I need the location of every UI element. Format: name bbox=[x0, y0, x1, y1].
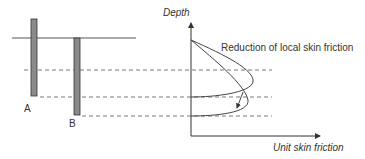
diagram-canvas bbox=[0, 0, 365, 159]
pile-b-label: B bbox=[69, 119, 76, 129]
reduction-arrow bbox=[237, 92, 243, 108]
pile-a bbox=[31, 19, 37, 96]
reduction-annotation: Reduction of local skin friction bbox=[221, 43, 353, 53]
pile-a-label: A bbox=[24, 104, 31, 114]
y-axis-label: Depth bbox=[163, 8, 190, 18]
x-axis-label: Unit skin friction bbox=[273, 143, 344, 153]
pile-b bbox=[74, 38, 80, 115]
